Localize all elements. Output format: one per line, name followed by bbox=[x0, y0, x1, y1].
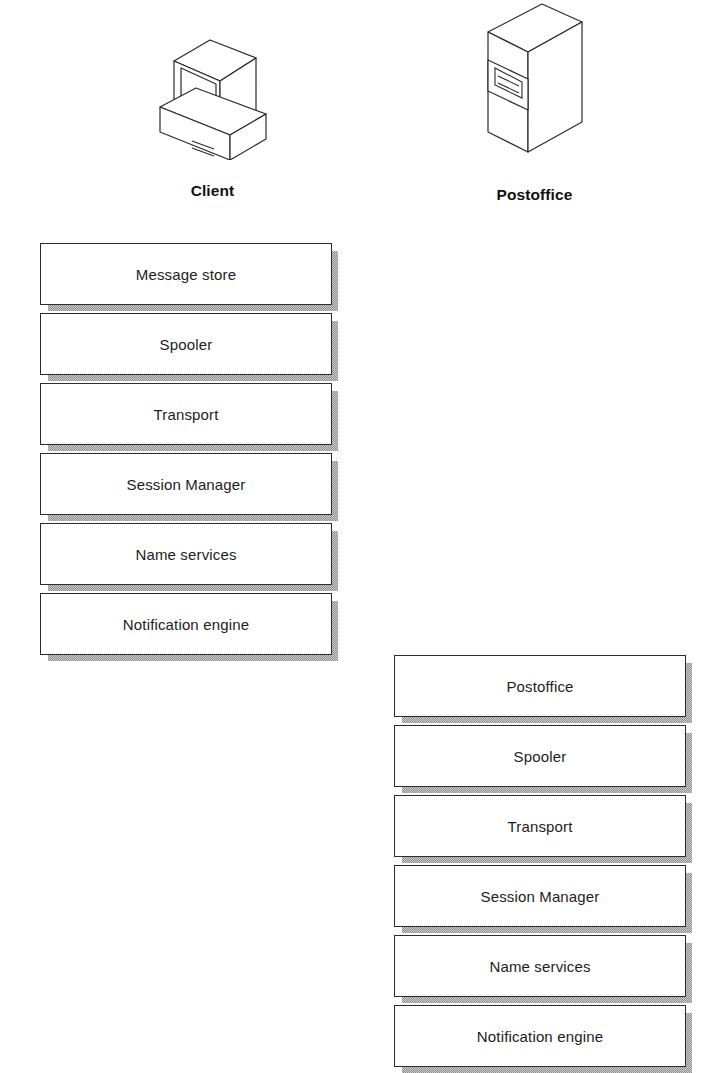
layer-label: Name services bbox=[489, 959, 590, 974]
layer-label: Session Manager bbox=[127, 477, 246, 492]
postoffice-icon-holder bbox=[442, 8, 627, 160]
client-layer-stack: Message store Spooler Transport Session … bbox=[40, 243, 332, 655]
layer-box[interactable]: Session Manager bbox=[40, 453, 332, 515]
layer-box[interactable]: Spooler bbox=[40, 313, 332, 375]
client-node: Client bbox=[120, 24, 305, 200]
layer-box[interactable]: Spooler bbox=[394, 725, 686, 787]
layer-label: Postoffice bbox=[506, 679, 573, 694]
layer-label: Session Manager bbox=[481, 889, 600, 904]
layer-box[interactable]: Name services bbox=[40, 523, 332, 585]
layer-label: Notification engine bbox=[477, 1029, 603, 1044]
postoffice-label: Postoffice bbox=[442, 186, 627, 204]
layer-box[interactable]: Notification engine bbox=[394, 1005, 686, 1067]
layer-label: Name services bbox=[135, 547, 236, 562]
layer-box[interactable]: Session Manager bbox=[394, 865, 686, 927]
desktop-computer-icon bbox=[148, 28, 278, 160]
device-icons-row: Client P bbox=[0, 0, 721, 230]
layer-label: Spooler bbox=[160, 337, 213, 352]
client-icon-holder bbox=[120, 24, 305, 160]
layer-box[interactable]: Message store bbox=[40, 243, 332, 305]
layer-box[interactable]: Postoffice bbox=[394, 655, 686, 717]
layer-label: Notification engine bbox=[123, 617, 249, 632]
layer-box[interactable]: Transport bbox=[394, 795, 686, 857]
postoffice-node: Postoffice bbox=[442, 8, 627, 204]
layer-box[interactable]: Transport bbox=[40, 383, 332, 445]
server-tower-icon bbox=[480, 0, 590, 160]
layer-label: Message store bbox=[136, 267, 236, 282]
layer-label: Transport bbox=[508, 819, 573, 834]
layer-box[interactable]: Notification engine bbox=[40, 593, 332, 655]
postoffice-layer-stack: Postoffice Spooler Transport Session Man… bbox=[394, 655, 686, 1067]
client-label: Client bbox=[120, 182, 305, 200]
layer-label: Transport bbox=[154, 407, 219, 422]
layer-box[interactable]: Name services bbox=[394, 935, 686, 997]
layer-label: Spooler bbox=[514, 749, 567, 764]
